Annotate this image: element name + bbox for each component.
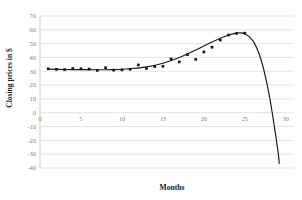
data-point <box>235 32 238 35</box>
data-point <box>170 58 173 61</box>
y-tick-label: -40 <box>27 164 36 171</box>
data-point <box>121 69 124 72</box>
x-tick-label: 0 <box>38 115 41 122</box>
data-point <box>137 64 140 67</box>
data-point <box>96 69 99 72</box>
data-point <box>80 67 83 70</box>
x-tick-label: 15 <box>160 115 166 122</box>
data-point <box>219 39 222 42</box>
y-tick-label: 70 <box>30 12 36 19</box>
y-tick-label: 60 <box>30 26 36 33</box>
x-axis-title: Months <box>160 183 185 192</box>
y-axis-title: Closing prices in $ <box>5 48 14 108</box>
data-point <box>71 67 74 70</box>
x-tick-label: 30 <box>283 115 289 122</box>
data-point <box>244 32 247 35</box>
data-point <box>153 65 156 68</box>
data-point <box>129 68 132 71</box>
chart-canvas: 706050403020100-10-20-30-40 051015202530… <box>0 0 302 200</box>
x-tick-label: 10 <box>119 115 125 122</box>
chart-figure: 706050403020100-10-20-30-40 051015202530… <box>0 0 302 200</box>
data-point <box>186 53 189 56</box>
data-point <box>162 65 165 68</box>
data-point <box>112 69 115 72</box>
data-point <box>227 34 230 37</box>
y-tick-label: 30 <box>30 68 36 75</box>
data-point <box>104 66 107 69</box>
y-tick-label: -30 <box>27 150 36 157</box>
data-point <box>88 68 91 71</box>
data-point <box>203 51 206 54</box>
y-tick-label: 40 <box>30 54 36 61</box>
data-point <box>145 67 148 70</box>
data-point <box>55 68 58 71</box>
x-tick-label: 5 <box>79 115 82 122</box>
data-point <box>178 61 181 64</box>
y-tick-label: 0 <box>33 109 36 116</box>
x-tick-label: 25 <box>242 115 248 122</box>
y-tick-label: -20 <box>27 137 36 144</box>
x-tick-label: 20 <box>201 115 207 122</box>
y-tick-label: 50 <box>30 40 36 47</box>
data-point <box>63 68 66 71</box>
data-point <box>47 67 50 70</box>
data-point <box>194 58 197 61</box>
y-tick-label: -10 <box>27 123 36 130</box>
y-tick-label: 20 <box>30 81 36 88</box>
data-point <box>211 46 214 49</box>
y-tick-label: 10 <box>30 95 36 102</box>
